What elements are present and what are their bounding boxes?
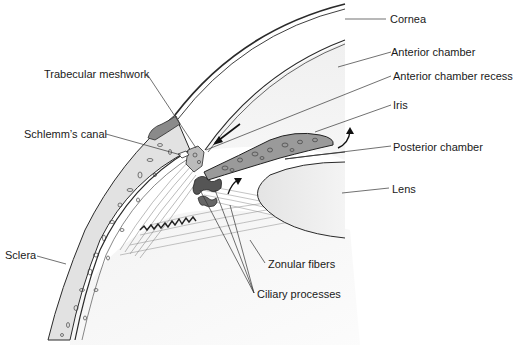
label-anterior-chamber-recess: Anterior chamber recess [393,70,513,83]
label-lens: Lens [392,183,416,196]
eye-anterior-segment-diagram: Cornea Anterior chamber Anterior chamber… [0,0,513,357]
arrow-from-ciliary-icon [228,178,242,194]
label-anterior-chamber: Anterior chamber [391,46,475,59]
label-posterior-chamber: Posterior chamber [393,141,483,154]
label-cornea: Cornea [390,13,426,26]
label-trabecular-meshwork: Trabecular meshwork [44,68,149,81]
label-zonular-fibers: Zonular fibers [268,258,335,271]
label-sclera: Sclera [5,249,36,262]
label-ciliary-processes: Ciliary processes [257,288,341,301]
label-schlemms-canal: Schlemm’s canal [24,128,107,141]
label-iris: Iris [393,99,408,112]
trabecular-meshwork [186,146,204,172]
